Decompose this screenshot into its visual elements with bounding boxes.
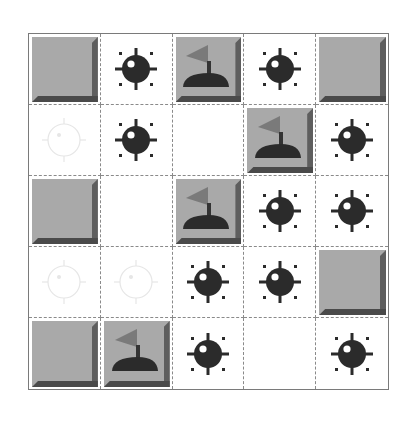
ghost-mine-icon: [40, 258, 88, 306]
flag-icon: [107, 325, 161, 377]
cell-r0-c2-flag[interactable]: [173, 34, 245, 105]
mine-icon: [113, 46, 159, 92]
raised-tile: [104, 321, 170, 387]
cell-r1-c0-ghost[interactable]: [29, 105, 101, 176]
cell-r1-c2-empty[interactable]: [173, 105, 245, 176]
mine-icon: [185, 259, 231, 305]
mine-icon: [257, 188, 303, 234]
cell-r3-c3-mine[interactable]: [244, 247, 316, 318]
raised-tile: [32, 37, 98, 102]
raised-tile: [32, 321, 98, 387]
cell-r3-c0-ghost[interactable]: [29, 247, 101, 318]
flag-icon: [250, 112, 304, 164]
flag-icon: [178, 183, 232, 235]
cell-r2-c2-flag[interactable]: [173, 176, 245, 247]
mine-icon: [329, 188, 375, 234]
mine-icon: [113, 117, 159, 163]
raised-tile: [247, 108, 313, 173]
raised-tile: [319, 250, 386, 315]
raised-tile: [176, 37, 242, 102]
cell-r2-c4-mine[interactable]: [316, 176, 388, 247]
cell-r4-c3-empty[interactable]: [244, 318, 316, 389]
cell-r1-c4-mine[interactable]: [316, 105, 388, 176]
cell-r3-c4-raised[interactable]: [316, 247, 388, 318]
cell-r4-c4-mine[interactable]: [316, 318, 388, 389]
cell-r1-c1-mine[interactable]: [101, 105, 173, 176]
cell-r0-c3-mine[interactable]: [244, 34, 316, 105]
mine-icon: [257, 259, 303, 305]
cell-r2-c0-raised[interactable]: [29, 176, 101, 247]
raised-tile: [32, 179, 98, 244]
cell-r3-c2-mine[interactable]: [173, 247, 245, 318]
cell-r4-c1-flag[interactable]: [101, 318, 173, 389]
mine-icon: [185, 331, 231, 377]
flag-icon: [178, 41, 232, 93]
raised-tile: [319, 37, 386, 102]
cell-r0-c4-raised[interactable]: [316, 34, 388, 105]
mine-icon: [329, 117, 375, 163]
ghost-mine-icon: [112, 258, 160, 306]
ghost-mine-icon: [40, 116, 88, 164]
cell-r3-c1-ghost[interactable]: [101, 247, 173, 318]
mine-icon: [329, 331, 375, 377]
mine-icon: [257, 46, 303, 92]
raised-tile: [176, 179, 242, 244]
cell-r2-c1-empty[interactable]: [101, 176, 173, 247]
cell-r4-c2-mine[interactable]: [173, 318, 245, 389]
cell-r1-c3-flag[interactable]: [244, 105, 316, 176]
cell-r4-c0-raised[interactable]: [29, 318, 101, 389]
cell-r0-c1-mine[interactable]: [101, 34, 173, 105]
cell-r0-c0-raised[interactable]: [29, 34, 101, 105]
cell-r2-c3-mine[interactable]: [244, 176, 316, 247]
game-board: [28, 33, 389, 390]
